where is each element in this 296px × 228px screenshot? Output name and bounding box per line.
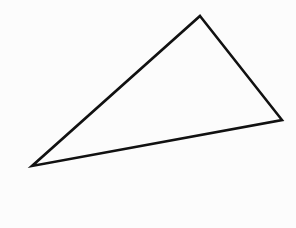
- diagram-canvas: [0, 0, 296, 228]
- triangle-figure: [0, 0, 296, 228]
- triangle-shape: [32, 16, 282, 166]
